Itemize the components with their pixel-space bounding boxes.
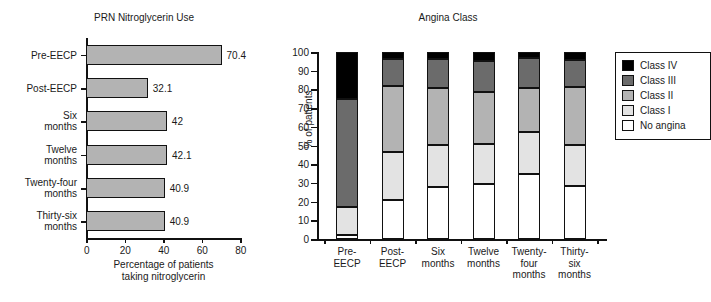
stacked-segment[interactable] xyxy=(518,88,540,133)
stacked-column[interactable] xyxy=(382,52,404,239)
right-xtick-label-line: Thirty- xyxy=(548,246,602,258)
left-bar[interactable] xyxy=(86,45,222,65)
legend-item[interactable]: Class III xyxy=(622,73,704,88)
stacked-segment[interactable] xyxy=(473,61,495,92)
left-bar-value-label: 70.4 xyxy=(227,49,246,60)
right-ytick-label: 10 xyxy=(298,215,309,226)
stacked-segment[interactable] xyxy=(382,86,404,152)
right-ytick xyxy=(311,164,317,166)
right-ytick-label: 90 xyxy=(298,65,309,76)
stacked-segment[interactable] xyxy=(336,207,358,234)
stacked-segment[interactable] xyxy=(564,87,586,145)
right-ytick-label: 40 xyxy=(298,159,309,170)
stacked-segment[interactable] xyxy=(473,184,495,239)
left-bar[interactable] xyxy=(86,111,167,131)
stacked-segment[interactable] xyxy=(518,132,540,174)
right-xtick-label: Thirty-sixmonths xyxy=(548,246,602,281)
stacked-segment[interactable] xyxy=(518,174,540,239)
right-ytick xyxy=(311,127,317,129)
stacked-segment[interactable] xyxy=(564,145,586,186)
stacked-column[interactable] xyxy=(336,52,358,239)
left-bar-category-label: Thirty-sixmonths xyxy=(36,210,77,232)
stacked-segment[interactable] xyxy=(427,187,449,239)
left-bar-category-line: Six xyxy=(44,110,77,121)
legend-swatch-icon xyxy=(622,75,634,86)
right-ytick-label: 80 xyxy=(298,84,309,95)
left-bar-value-label: 32.1 xyxy=(153,83,172,94)
right-xtick xyxy=(552,239,554,244)
right-chart-title: Angina Class xyxy=(288,12,608,23)
right-ytick xyxy=(311,52,317,54)
legend-item[interactable]: Class II xyxy=(622,88,704,103)
legend-swatch-icon xyxy=(622,90,634,101)
right-xtick xyxy=(506,239,508,244)
left-bar-category-line: Pre-EECP xyxy=(31,49,77,60)
right-ytick xyxy=(311,146,317,148)
left-chart-title: PRN Nitroglycerin Use xyxy=(0,12,288,23)
stacked-segment[interactable] xyxy=(336,52,358,99)
stacked-segment[interactable] xyxy=(427,52,449,59)
left-xtick xyxy=(240,238,242,243)
left-bar-category-line: months xyxy=(44,155,77,166)
stacked-segment[interactable] xyxy=(564,60,586,86)
left-bar[interactable] xyxy=(86,178,165,198)
legend-label: Class II xyxy=(640,90,673,101)
stacked-segment[interactable] xyxy=(564,186,586,239)
right-chart-y-axis xyxy=(317,52,319,240)
right-ytick xyxy=(311,183,317,185)
stacked-segment[interactable] xyxy=(336,235,358,239)
stacked-segment[interactable] xyxy=(427,88,449,145)
right-xtick xyxy=(597,239,599,244)
stacked-segment[interactable] xyxy=(382,52,404,59)
stacked-segment[interactable] xyxy=(427,59,449,88)
stacked-segment[interactable] xyxy=(473,144,495,184)
left-bar-category-label: Twenty-fourmonths xyxy=(25,177,77,199)
left-bar-row: Post-EECP32.1 xyxy=(86,78,87,98)
right-ytick-label: 20 xyxy=(298,196,309,207)
stacked-segment[interactable] xyxy=(382,59,404,86)
left-bar-category-line: Twenty-four xyxy=(25,177,77,188)
left-xtick-label: 80 xyxy=(235,245,246,256)
legend-label: Class IV xyxy=(640,60,677,71)
stacked-column[interactable] xyxy=(518,52,540,239)
stacked-segment[interactable] xyxy=(564,52,586,60)
left-xtick xyxy=(163,238,165,243)
left-bar-category-line: months xyxy=(36,221,77,232)
legend-item[interactable]: Class I xyxy=(622,103,704,118)
left-bar-row: Pre-EECP70.4 xyxy=(86,45,87,65)
legend-label: No angina xyxy=(640,120,686,131)
stacked-segment[interactable] xyxy=(518,52,540,58)
left-xtick-label: 40 xyxy=(158,245,169,256)
stacked-segment[interactable] xyxy=(473,92,495,143)
right-xtick xyxy=(415,239,417,244)
stacked-segment[interactable] xyxy=(473,52,495,61)
left-bar[interactable] xyxy=(86,211,165,231)
stacked-column[interactable] xyxy=(473,52,495,239)
legend-item[interactable]: Class IV xyxy=(622,58,704,73)
left-bar-category-line: Post-EECP xyxy=(26,83,77,94)
left-bar[interactable] xyxy=(86,78,148,98)
right-xtick-label-line: months xyxy=(548,269,602,281)
right-ytick xyxy=(311,239,317,241)
stacked-segment[interactable] xyxy=(382,152,404,200)
stacked-segment[interactable] xyxy=(518,58,540,88)
stacked-segment[interactable] xyxy=(382,200,404,239)
stacked-segment[interactable] xyxy=(427,145,449,187)
left-bar-row: Twenty-fourmonths40.9 xyxy=(86,178,87,198)
left-bar-value-label: 42.1 xyxy=(172,149,191,160)
left-xaxis-label-line1: Percentage of patients xyxy=(86,259,241,271)
left-bar[interactable] xyxy=(86,145,167,165)
stacked-segment[interactable] xyxy=(336,99,358,207)
right-ytick-label: 50 xyxy=(298,140,309,151)
left-bar-category-line: months xyxy=(25,188,77,199)
left-xaxis-label-line2: taking nitroglycerin xyxy=(86,271,241,283)
left-bar-row: Thirty-sixmonths40.9 xyxy=(86,211,87,231)
right-ytick-label: 100 xyxy=(292,47,309,58)
legend-label: Class I xyxy=(640,105,671,116)
legend-label: Class III xyxy=(640,75,676,86)
right-ytick xyxy=(311,108,317,110)
legend-item[interactable]: No angina xyxy=(622,118,704,133)
stacked-column[interactable] xyxy=(564,52,586,239)
stacked-column[interactable] xyxy=(427,52,449,239)
